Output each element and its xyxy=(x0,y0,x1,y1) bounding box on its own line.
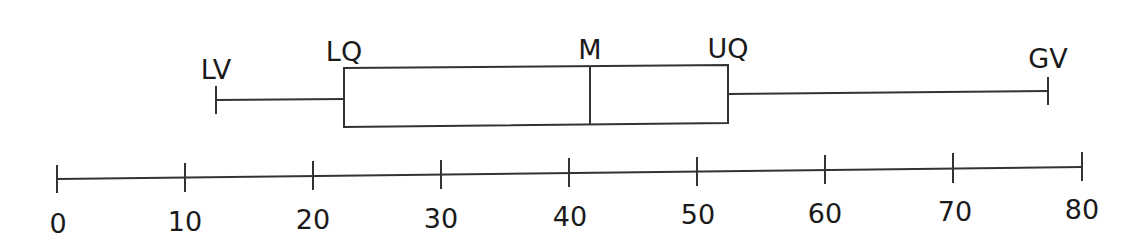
left-whisker xyxy=(216,99,344,100)
tick-label-20: 20 xyxy=(296,204,330,235)
tick-label-40: 40 xyxy=(553,201,587,232)
right-whisker xyxy=(728,91,1048,94)
number-line: 0 10 20 30 40 50 60 70 80 xyxy=(49,152,1099,239)
interquartile-box xyxy=(344,65,728,127)
label-lq: LQ xyxy=(326,36,362,67)
box-plot-diagram: LV LQ M UQ GV 0 10 20 30 40 50 60 70 80 xyxy=(0,0,1138,250)
tick-label-60: 60 xyxy=(808,198,842,229)
label-gv: GV xyxy=(1028,43,1068,74)
tick-label-70: 70 xyxy=(938,196,972,227)
label-uq: UQ xyxy=(707,33,748,64)
label-lv: LV xyxy=(201,54,232,85)
tick-label-50: 50 xyxy=(681,199,715,230)
label-m: M xyxy=(578,34,601,65)
box-plot: LV LQ M UQ GV xyxy=(201,33,1068,127)
tick-label-10: 10 xyxy=(168,206,202,237)
tick-label-80: 80 xyxy=(1065,194,1099,225)
tick-label-30: 30 xyxy=(424,203,458,234)
tick-label-0: 0 xyxy=(49,208,66,239)
